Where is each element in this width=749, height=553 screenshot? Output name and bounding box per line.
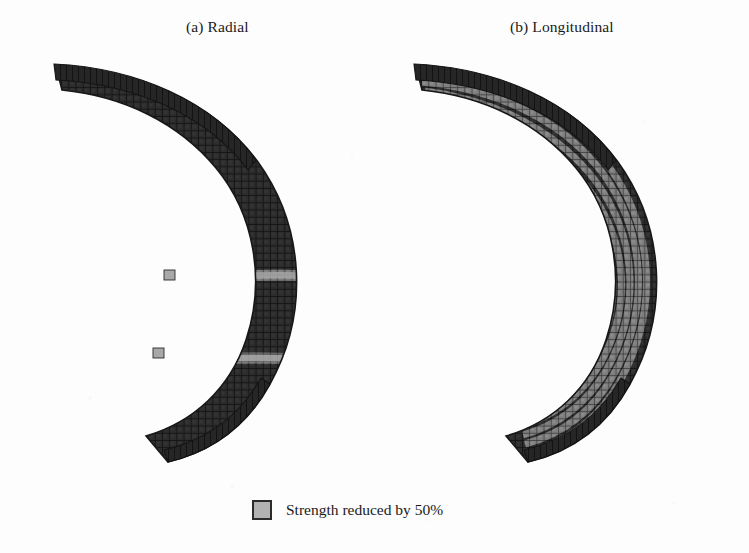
radial-mesh-svg xyxy=(18,44,370,474)
panel-b-mesh-longitudinal xyxy=(378,44,730,474)
legend-label: Strength reduced by 50% xyxy=(286,501,443,519)
panel-a-caption: (a) Radial xyxy=(186,18,249,36)
panel-b-caption: (b) Longitudinal xyxy=(510,18,614,36)
longitudinal-inner-notch-lower xyxy=(498,350,523,368)
longitudinal-mesh-svg xyxy=(378,44,730,474)
longitudinal-inner-notch-upper xyxy=(509,272,534,290)
panel-a-mesh-radial xyxy=(18,44,370,474)
weakened-element-swatch-icon xyxy=(252,500,272,520)
radial-notch-stub-upper xyxy=(164,270,175,280)
legend: Strength reduced by 50% xyxy=(252,500,443,520)
radial-notch-stub-lower xyxy=(153,348,164,358)
figure-page: (a) Radial (b) Longitudinal xyxy=(0,0,749,553)
